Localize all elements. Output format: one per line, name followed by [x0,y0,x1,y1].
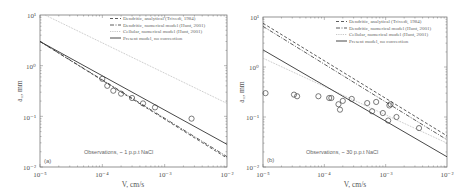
observation-marker [152,105,157,110]
y-tick-label: 10¹ [250,14,259,22]
figure: Dendritic, analytical (Trivedi, 1984)Den… [0,0,465,193]
legend: Dendritic, analytical (Trivedi, 1984)Den… [110,16,206,42]
legend-label: Dendritic, analytical (Trivedi, 1984) [349,19,422,25]
panel-tag: (b) [267,157,274,163]
observation-marker [340,98,345,103]
y-axis-label: a₁, mm [237,81,246,103]
x-tick-label: 10⁻⁴ [95,171,109,179]
observation-marker [295,94,300,99]
legend-label: Cellular, numerical model (Hunt, 2001) [123,29,203,35]
legend: Dendritic, analytical (Trivedi, 1984)Den… [336,19,432,45]
x-tick-label: 10⁻⁵ [33,171,47,179]
observation-marker [365,100,370,105]
observation-marker [111,88,116,93]
panel-tag: (a) [44,158,51,164]
y-axis-label: a₁, mm [15,80,24,102]
y-tick-label: 10⁻¹ [246,114,259,122]
x-tick-label: 10⁻⁵ [256,171,270,179]
y-tick-label: 10⁰ [26,63,36,71]
observation-marker [337,107,342,112]
y-tick-label: 10⁻¹ [23,114,36,122]
x-tick-label: 10⁻⁴ [317,171,331,179]
legend-label: Dendritic, numerical model (Hunt, 2001) [123,23,206,29]
x-axis-label: V, cm/s [344,180,366,189]
legend-label: Dendritic, analytical (Trivedi, 1984) [123,16,196,22]
observation-marker [291,92,296,97]
x-tick-label: 10⁻² [220,171,233,179]
observations-annotation: Observations, ~ 30 p.p.t NaCl [306,149,378,155]
observation-marker [316,94,321,99]
panel-b: Dendritic, analytical (Trivedi, 1984)Den… [237,14,454,189]
observations-annotation: Observations, ~ 1 p.p.t NaCl [84,149,153,155]
series-line-solid [263,50,447,157]
observation-marker [189,116,194,121]
observation-marker [374,99,379,104]
x-tick-label: 10⁻³ [158,171,171,179]
observation-markers [100,76,194,121]
series-line-dashdot [40,41,227,156]
observation-marker [387,103,392,108]
legend-label: Cellular, numerical model (Hunt, 2001) [349,32,429,38]
panel-a: Dendritic, analytical (Trivedi, 1984)Den… [15,12,234,189]
x-tick-label: 10⁻² [440,171,453,179]
legend-label: Dendritic, numerical model (Hunt, 2001) [349,26,432,32]
y-tick-label: 10¹ [27,12,36,20]
observation-markers [263,91,422,131]
series-line-solid [40,41,227,144]
x-tick-label: 10⁻³ [379,171,392,179]
observation-marker [105,83,110,88]
legend-label: Present model, no convection [123,36,183,42]
observation-marker [394,114,399,119]
x-axis-label: V, cm/s [122,180,144,189]
y-tick-label: 10⁰ [249,64,259,72]
legend-label: Present model, no convection [349,39,409,45]
